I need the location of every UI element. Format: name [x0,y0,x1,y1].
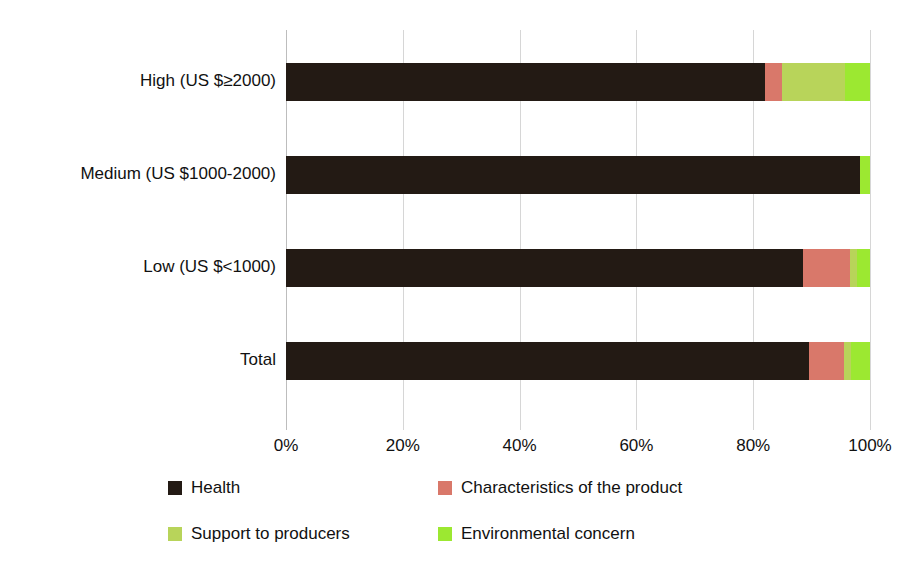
bar-segment [845,63,870,101]
x-axis-tick-label: 60% [619,436,653,456]
bar-segment [850,249,857,287]
bar-segment [844,342,851,380]
legend-label: Environmental concern [461,524,635,544]
bar-segment [782,63,845,101]
bar-segment [765,63,783,101]
legend-item[interactable]: Environmental concern [438,524,868,544]
bar-segment [286,342,809,380]
x-axis-tick-label: 0% [274,436,299,456]
bar-segment [860,156,870,194]
legend-item[interactable]: Characteristics of the product [438,478,868,498]
bar-row [286,156,870,194]
y-axis-label: Medium (US $1000-2000) [0,164,276,184]
legend-label: Support to producers [191,524,350,544]
legend-swatch-icon [168,481,182,495]
bar-segment [286,249,803,287]
x-axis-tick-label: 20% [386,436,420,456]
y-axis-label: Low (US $<1000) [0,257,276,277]
legend-swatch-icon [438,527,452,541]
y-axis-label: Total [0,350,276,370]
bar-segment [851,342,870,380]
bar-row [286,249,870,287]
x-axis-tick-label: 80% [736,436,770,456]
bar-segment [857,249,870,287]
y-axis-label: High (US $≥2000) [0,71,276,91]
x-axis-tick-label: 40% [503,436,537,456]
legend-label: Health [191,478,240,498]
plot-area [286,30,870,430]
legend-item[interactable]: Health [168,478,438,498]
x-axis-tick-label: 100% [848,436,891,456]
legend-item[interactable]: Support to producers [168,524,438,544]
bar-row [286,342,870,380]
stacked-bar-chart: High (US $≥2000)Medium (US $1000-2000)Lo… [0,0,914,565]
bar-segment [803,249,850,287]
bar-segment [286,63,765,101]
bar-row [286,63,870,101]
bar-segment [809,342,844,380]
legend-swatch-icon [438,481,452,495]
chart-legend: HealthCharacteristics of the productSupp… [168,478,868,544]
gridline-100 [870,30,871,430]
legend-label: Characteristics of the product [461,478,682,498]
bar-segment [286,156,860,194]
legend-swatch-icon [168,527,182,541]
